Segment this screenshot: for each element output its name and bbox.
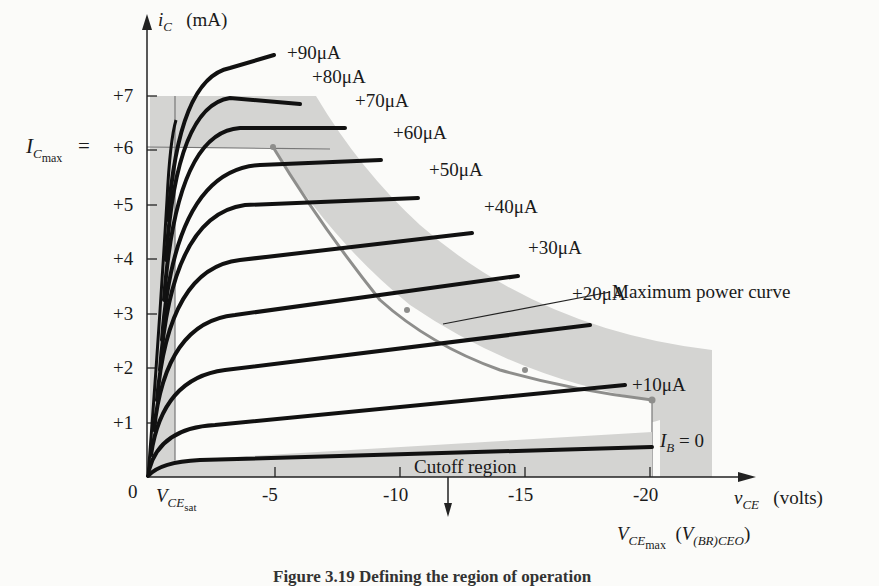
figure-caption: Figure 3.19 Defining the region of opera…: [273, 568, 591, 585]
x-axis-label: vCE (volts): [734, 488, 823, 511]
curve-label-70: +70μA: [355, 91, 409, 110]
curve-label-40: +40μA: [484, 197, 538, 216]
curve-label-30: +30μA: [528, 238, 582, 257]
vbr-close: ): [744, 523, 750, 544]
ib-equals: = 0: [679, 430, 704, 451]
y-tick-1: +1: [113, 413, 133, 432]
curve-label-90: +90μA: [287, 43, 341, 62]
icmax-label: ICmax =: [26, 136, 90, 164]
cutoff-label: Cutoff region: [414, 457, 517, 476]
x-axis-unit: (volts): [773, 487, 823, 508]
curve-label-80: +80μA: [312, 67, 366, 86]
max-power-label: Maximum power curve: [612, 282, 790, 301]
y-axis-unit: (mA): [186, 9, 227, 30]
y-axis-arrow: [142, 14, 152, 30]
y-tick-6: +6: [113, 138, 133, 157]
vcemax-var: V: [617, 523, 629, 544]
vcesat-label: VCEsat: [156, 486, 196, 513]
vbr-sub: (BR)CEO: [693, 533, 744, 548]
icmax-equals: =: [78, 134, 90, 158]
curve-label-10: +10μA: [632, 375, 686, 394]
curve-label-60: +60μA: [393, 123, 447, 142]
x-tick-15: -15: [508, 485, 533, 504]
curve-label-50: +50μA: [429, 160, 483, 179]
vcesat-var: V: [156, 485, 168, 506]
y-tick-4: +4: [113, 249, 133, 268]
vcemax-sub: CE: [629, 533, 646, 548]
vbr-var: V: [682, 523, 694, 544]
icmax-var: I: [26, 134, 33, 158]
y-axis-label: iC (mA): [158, 10, 227, 33]
icmax-subsub: max: [42, 151, 63, 165]
vcesat-sub: CE: [168, 495, 185, 510]
y-tick-5: +5: [113, 195, 133, 214]
x-axis-arrow: [738, 472, 756, 482]
y-tick-3: +3: [113, 304, 133, 323]
ib-sub: B: [666, 440, 674, 455]
y-tick-7: +7: [113, 86, 133, 105]
x-axis-sub: CE: [742, 497, 759, 512]
vcemax-label: VCEmax (V(BR)CEO): [617, 524, 750, 551]
y-axis-sub: C: [163, 19, 172, 34]
origin-label: 0: [128, 482, 138, 501]
ib-zero-label: IB = 0: [660, 431, 704, 454]
vcesat-subsub: sat: [184, 501, 196, 513]
y-tick-2: +2: [113, 358, 133, 377]
x-tick-5: -5: [262, 485, 278, 504]
vcemax-subsub: max: [645, 538, 666, 552]
icmax-sub: C: [33, 146, 42, 161]
x-tick-20: -20: [633, 485, 658, 504]
x-tick-10: -10: [383, 485, 408, 504]
